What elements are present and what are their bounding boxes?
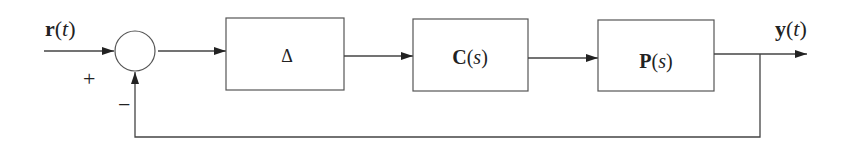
- output-signal-label: y(t): [775, 16, 807, 41]
- summing-junction: [115, 31, 155, 71]
- block-controller-label: C(s): [452, 46, 488, 69]
- svg-text:y(t): y(t): [775, 16, 807, 41]
- input-signal-label: r(t): [45, 16, 76, 41]
- block-plant-label: P(s): [639, 50, 672, 73]
- plus-sign: +: [83, 66, 95, 91]
- block-diagram: r(t) + − Δ C(s) P(s) y(t): [0, 0, 847, 146]
- block-delta-label: Δ: [281, 46, 293, 66]
- block-delta: Δ: [226, 18, 344, 90]
- block-plant: P(s): [598, 20, 714, 91]
- svg-text:r(t): r(t): [45, 16, 76, 41]
- minus-sign: −: [118, 92, 130, 117]
- block-controller: C(s): [413, 19, 528, 91]
